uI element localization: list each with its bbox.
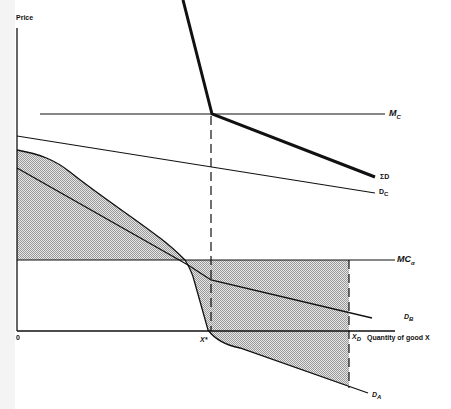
mc-label-sub: C	[397, 114, 401, 120]
x-d-label: XD	[352, 333, 361, 342]
demand-a-label: DA	[372, 391, 381, 400]
y-axis-label: Price	[16, 14, 33, 21]
demand-b-label-sub: B	[409, 316, 413, 322]
sum-demand-label: ΣD	[380, 173, 389, 180]
mc-alpha-label-sub: α	[411, 260, 415, 266]
sum-demand-curve	[183, 0, 375, 177]
shaded-area-upper	[17, 150, 185, 260]
mc-alpha-label-text: MC	[397, 254, 411, 264]
demand-b-label: DB	[404, 313, 413, 322]
x-axis-label: Quantity of good X	[367, 334, 430, 341]
mc-alpha-label: MCα	[397, 254, 415, 266]
mc-label-text: M	[389, 108, 397, 118]
demand-a-label-sub: A	[377, 394, 381, 400]
x-star-label: X*	[200, 336, 207, 343]
demand-c-label: DC	[379, 188, 388, 197]
x-d-label-sub: D	[357, 336, 361, 342]
mc-label: MC	[389, 108, 401, 120]
price-quantity-diagram	[0, 0, 451, 409]
demand-c-label-sub: C	[384, 191, 388, 197]
origin-label: 0	[16, 334, 20, 341]
